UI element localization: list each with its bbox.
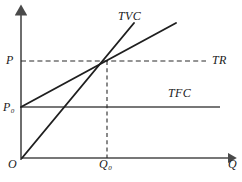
x-tick-label-quantity-zero: Q0 xyxy=(99,158,111,170)
curve-label-tr: TR xyxy=(212,54,227,66)
curve-label-tfc: TFC xyxy=(168,87,191,99)
subscript-zero: 0 xyxy=(11,107,15,115)
y-tick-label-price-zero: P0 xyxy=(3,101,14,113)
x-axis-label: Q xyxy=(228,158,237,170)
y-tick-label-price: P xyxy=(6,54,13,66)
total-variable-cost-line xyxy=(22,23,134,158)
curve-label-tvc: TVC xyxy=(118,10,141,22)
break-even-diagram: TVC TR TFC P P0 O Q0 Q xyxy=(0,0,242,182)
plot-area xyxy=(0,0,242,182)
origin-label: O xyxy=(8,158,17,170)
subscript-zero: 0 xyxy=(108,164,112,172)
